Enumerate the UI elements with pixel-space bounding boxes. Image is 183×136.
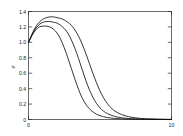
x-tick-label: 0 (27, 122, 30, 128)
chart-background (0, 0, 183, 136)
y-tick-label: 1.4 (19, 9, 26, 15)
x-tick-label: 10 (169, 122, 175, 128)
y-tick-label: 0 (23, 117, 26, 123)
y-axis-label: σ (10, 65, 16, 68)
y-tick-label: 0.6 (19, 70, 26, 76)
line-chart: 0 0.2 0.4 0.6 0.8 (0, 0, 183, 136)
y-tick-label: 1.2 (19, 24, 26, 30)
y-tick-label: 0.2 (19, 101, 26, 107)
y-tick-label: 1.0 (19, 39, 26, 45)
chart-figure: 0 0.2 0.4 0.6 0.8 (0, 0, 183, 136)
y-tick-label: 0.4 (19, 86, 26, 92)
y-tick-label: 0.8 (19, 55, 26, 61)
